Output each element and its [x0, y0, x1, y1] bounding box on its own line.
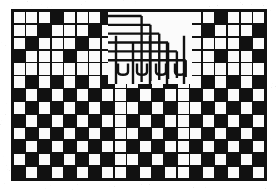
mosaic-cell: [115, 128, 126, 139]
speckle-dot: [265, 188, 266, 189]
mosaic-cell: [115, 102, 126, 113]
mosaic-cell: [165, 115, 176, 126]
mosaic-cell: [203, 115, 214, 126]
speckle-dot: [50, 185, 51, 186]
mosaic-cell: [140, 115, 151, 126]
mosaic-cell: [39, 102, 50, 113]
mosaic-band-separator: [214, 63, 216, 74]
mosaic-cell: [64, 76, 75, 87]
mosaic-cell: [39, 76, 50, 87]
mosaic-cell: [241, 25, 252, 36]
mosaic-cell: [253, 12, 264, 23]
mosaic-cell: [228, 38, 239, 49]
mosaic-cell: [152, 102, 163, 113]
mosaic-cell: [165, 141, 176, 152]
speckle-dot: [77, 184, 78, 185]
mosaic-cell: [64, 12, 75, 23]
mosaic-cell: [39, 38, 50, 49]
mosaic-cell: [64, 154, 75, 165]
speckle-dot: [3, 156, 4, 157]
speckle-dot: [271, 87, 272, 88]
mosaic-cell: [178, 154, 189, 165]
mosaic-band-separator: [201, 63, 203, 74]
speckle-dot: [217, 5, 218, 6]
speckle-dot: [81, 4, 82, 5]
speckle-dot: [47, 7, 48, 8]
speckle-dot: [275, 134, 276, 135]
speckle-dot: [135, 3, 136, 4]
mosaic-cell: [215, 128, 226, 139]
mosaic-cell: [215, 25, 226, 36]
mosaic-cell: [89, 51, 100, 62]
mosaic-cell: [115, 141, 126, 152]
speckle-dot: [270, 138, 271, 139]
speckle-dot: [51, 6, 52, 7]
mosaic-cell: [228, 25, 239, 36]
mosaic-cell: [26, 51, 37, 62]
mosaic-cell: [52, 167, 63, 178]
mosaic-svg: [0, 0, 277, 190]
mosaic-cell: [14, 25, 25, 36]
mosaic-cell: [77, 25, 88, 36]
mosaic-cell: [228, 167, 239, 178]
speckle-dot: [275, 86, 276, 87]
mosaic-cell: [64, 38, 75, 49]
mosaic-cell: [89, 76, 100, 87]
speckle-dot: [5, 114, 6, 115]
mosaic-cell: [14, 76, 25, 87]
mosaic-cell: [203, 89, 214, 100]
mosaic-cell: [215, 102, 226, 113]
meander-layer: [108, 12, 192, 84]
mosaic-band-separator: [37, 63, 39, 74]
speckle-dot: [141, 184, 142, 185]
mosaic-cell: [77, 51, 88, 62]
mosaic-cell: [77, 141, 88, 152]
mosaic-cell: [203, 38, 214, 49]
mosaic-cell: [89, 12, 100, 23]
mosaic-cell: [26, 89, 37, 100]
speckle-dot: [193, 187, 194, 188]
mosaic-band-separator: [63, 63, 65, 74]
speckle-dot: [41, 4, 42, 5]
mosaic-cell: [89, 154, 100, 165]
mosaic-band-separator: [100, 63, 102, 74]
mosaic-cell: [253, 167, 264, 178]
mosaic-band-separator: [252, 63, 254, 74]
mosaic-cell: [115, 115, 126, 126]
speckle-dot: [1, 42, 2, 43]
mosaic-cell: [178, 115, 189, 126]
speckle-dot: [12, 2, 13, 3]
figure-canvas: [0, 0, 277, 190]
speckle-dot: [9, 170, 10, 171]
mosaic-cell: [140, 141, 151, 152]
mosaic-cell: [77, 12, 88, 23]
mosaic-cell: [165, 167, 176, 178]
mosaic-cell: [26, 141, 37, 152]
speckle-dot: [262, 3, 263, 4]
mosaic-cell: [178, 128, 189, 139]
mosaic-cell: [127, 128, 138, 139]
mosaic-cell: [39, 154, 50, 165]
mosaic-cell: [215, 38, 226, 49]
mosaic-cell: [140, 167, 151, 178]
mosaic-cell: [178, 141, 189, 152]
mosaic-cell: [241, 12, 252, 23]
speckle-dot: [123, 0, 124, 1]
mosaic-cell: [241, 76, 252, 87]
speckle-dot: [109, 186, 110, 187]
speckle-dot: [45, 188, 46, 189]
mosaic-cell: [215, 76, 226, 87]
mosaic-cell: [203, 167, 214, 178]
mosaic-cell: [190, 128, 201, 139]
mosaic-cell: [178, 89, 189, 100]
mosaic-cell: [241, 154, 252, 165]
speckle-dot: [270, 10, 271, 11]
mosaic-cell: [52, 115, 63, 126]
mosaic-cell: [14, 154, 25, 165]
mosaic-cell: [140, 89, 151, 100]
mosaic-cell: [228, 141, 239, 152]
mosaic-band-separator: [239, 63, 241, 74]
mosaic-cell: [152, 128, 163, 139]
speckle-dot: [205, 187, 206, 188]
mosaic-cell: [215, 154, 226, 165]
